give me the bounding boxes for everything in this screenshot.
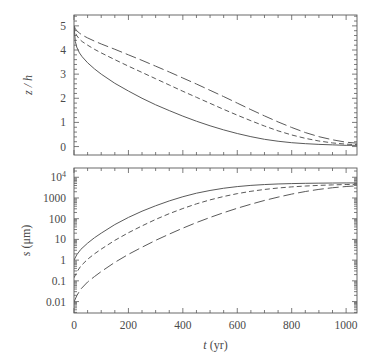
x-axis-label: t (yr)	[203, 338, 227, 352]
plot-canvas: 02004006008001000t (yr)012345z / h0.010.…	[0, 0, 373, 359]
y-top-tick-label: 3	[60, 68, 66, 80]
y-bottom-tick-label: 104	[51, 170, 67, 183]
y-bottom-tick-label: 0.01	[46, 296, 66, 308]
x-tick-label: 1000	[335, 319, 358, 331]
x-tick-label: 400	[174, 319, 192, 331]
top-panel-frame	[74, 15, 357, 155]
y-top-tick-label: 5	[60, 20, 66, 32]
data-curve-solid	[74, 183, 357, 260]
y-top-tick-label: 0	[60, 141, 66, 153]
y-top-tick-label: 1	[60, 116, 66, 128]
y-bottom-tick-label: 100	[49, 213, 67, 225]
data-curve-dashed	[74, 26, 357, 145]
x-tick-label: 0	[71, 319, 77, 331]
y-axis-label-top: z / h	[21, 75, 35, 96]
x-tick-label: 200	[120, 319, 138, 331]
x-tick-label: 800	[283, 319, 301, 331]
y-top-tick-label: 4	[60, 44, 66, 56]
data-curve-dashdot	[74, 186, 357, 302]
y-bottom-tick-label: 0.1	[52, 275, 67, 287]
figure-two-panel-plot: 02004006008001000t (yr)012345z / h0.010.…	[0, 0, 373, 359]
y-bottom-tick-label: 1	[60, 254, 66, 266]
y-top-tick-label: 2	[60, 92, 66, 104]
x-tick-label: 600	[229, 319, 247, 331]
data-curve-dashed	[74, 184, 357, 277]
y-bottom-tick-label: 10	[55, 233, 67, 245]
y-bottom-tick-label: 1000	[43, 192, 66, 204]
y-axis-label-bottom: s (μm)	[19, 225, 33, 256]
data-curve-solid	[74, 27, 357, 146]
